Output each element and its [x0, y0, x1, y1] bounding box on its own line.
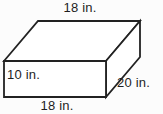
- prism-diagram: 18 in. 10 in. 20 in. 18 in.: [0, 0, 163, 114]
- label-depth: 20 in.: [117, 75, 150, 90]
- label-height: 10 in.: [7, 67, 40, 82]
- prism-drawing: [0, 0, 163, 114]
- label-bottom-width: 18 in.: [40, 98, 73, 113]
- label-top-width: 18 in.: [63, 0, 96, 15]
